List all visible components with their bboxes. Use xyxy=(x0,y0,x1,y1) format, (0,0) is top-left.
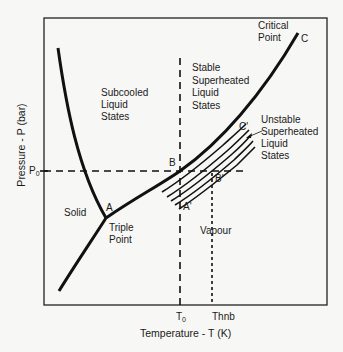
thnb-tick-label: Thnb xyxy=(212,311,235,323)
point-b-label: B xyxy=(169,157,176,169)
solid-region-label: Solid xyxy=(64,207,86,219)
point-a-label: A xyxy=(106,202,113,214)
triple-point-label: Triple Point xyxy=(109,222,134,246)
melting-curve xyxy=(58,48,106,218)
unstable-superheated-label: Unstable Superheated Liquid States xyxy=(261,114,318,162)
t0-tick-label: T0 xyxy=(176,311,186,326)
p0-tick-label: P0 xyxy=(29,165,40,180)
arrowhead-icon xyxy=(246,133,252,138)
point-b-prime-label: B' xyxy=(215,173,224,185)
subcooled-liquid-label: Subcooled Liquid States xyxy=(101,87,148,123)
point-c-prime-label: C' xyxy=(239,121,248,133)
point-c-label: C xyxy=(301,33,308,45)
y-axis-title: Pressure - P (bar) xyxy=(15,95,27,195)
stable-superheated-label: Stable Superheated Liquid States xyxy=(192,62,249,112)
sublimation-curve xyxy=(59,218,106,291)
point-a-prime-label: A' xyxy=(183,201,192,213)
phase-diagram xyxy=(0,0,343,352)
critical-point-label: Critical Point xyxy=(258,20,289,44)
x-axis-title: Temperature - T (K) xyxy=(140,327,231,339)
vapour-region-label: Vapour xyxy=(200,225,232,237)
